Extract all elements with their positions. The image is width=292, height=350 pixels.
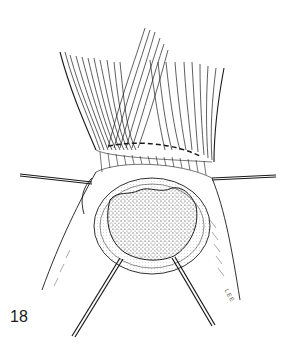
figure-number: 18 [10,308,28,326]
medical-illustration [0,0,292,350]
muscle-fibers-left [60,52,136,150]
